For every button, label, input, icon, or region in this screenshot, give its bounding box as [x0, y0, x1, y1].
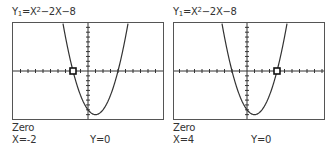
- calculator-screen-right: Y1=X2−2X−8 Zero X=4 Y=0: [167, 0, 334, 151]
- trace-cursor: [274, 68, 280, 74]
- mode-label: Zero: [173, 122, 195, 133]
- y-readout: Y=0: [90, 134, 110, 145]
- mode-label: Zero: [12, 122, 34, 133]
- x-readout: X=-2: [12, 134, 36, 145]
- calculator-screen-left: Y1=X2−2X−8 Zero X=-2 Y=0: [0, 0, 167, 151]
- x-readout: X=4: [173, 134, 194, 145]
- trace-cursor: [70, 68, 76, 74]
- y-readout: Y=0: [251, 134, 271, 145]
